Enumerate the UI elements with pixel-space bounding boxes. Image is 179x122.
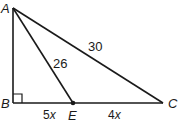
segment-ac	[13, 8, 163, 103]
segment-label-ac: 30	[88, 39, 102, 54]
segment-label-ec-var: x	[114, 108, 122, 122]
segment-label-be: 5x	[43, 108, 57, 122]
vertex-label-a: A	[0, 1, 10, 16]
segment-label-be-var: x	[49, 108, 57, 122]
vertex-label-b: B	[1, 96, 10, 111]
vertex-label-c: C	[168, 96, 178, 111]
vertex-label-e: E	[68, 108, 77, 122]
right-angle-marker-icon	[13, 94, 22, 103]
point-e-dot	[71, 101, 76, 106]
triangle-diagram: A B E C 30 26 5x 4x	[0, 0, 179, 122]
segment-label-ec: 4x	[108, 108, 122, 122]
segment-label-ae: 26	[53, 56, 67, 71]
